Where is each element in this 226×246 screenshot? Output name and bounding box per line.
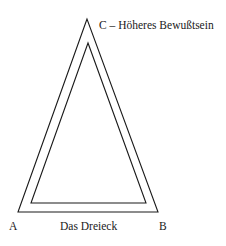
diagram-title: Das Dreieck bbox=[60, 221, 117, 233]
inner-triangle bbox=[31, 43, 146, 203]
vertex-c-label: C – Höheres Bewußtsein bbox=[99, 20, 214, 32]
outer-triangle bbox=[18, 19, 158, 212]
vertex-b-label: B bbox=[159, 221, 167, 233]
vertex-a-label: A bbox=[9, 221, 17, 233]
triangle-diagram bbox=[0, 0, 226, 246]
